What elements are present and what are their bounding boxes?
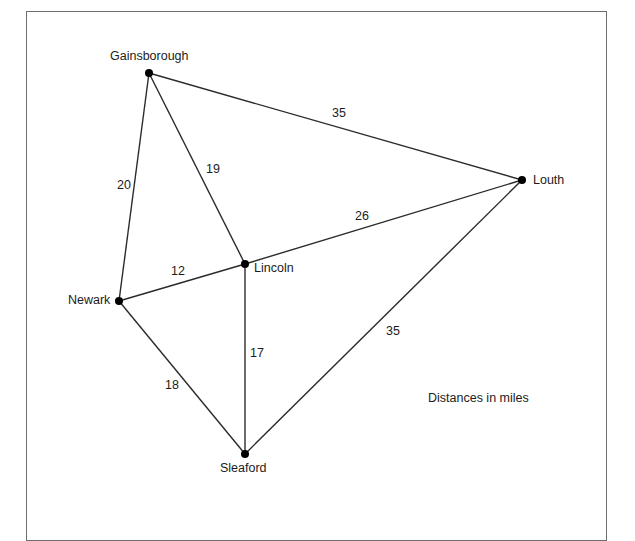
edge-gainsborough-lincoln xyxy=(149,73,245,264)
node-label-newark: Newark xyxy=(68,294,110,307)
edge-weight-newark-lincoln: 12 xyxy=(171,265,185,278)
node-dot-newark xyxy=(115,297,123,305)
node-dot-louth xyxy=(518,176,526,184)
edge-weight-gainsborough-louth: 35 xyxy=(332,107,346,120)
edge-weight-gainsborough-newark: 20 xyxy=(117,179,131,192)
edge-weight-gainsborough-lincoln: 19 xyxy=(206,163,220,176)
edge-newark-sleaford xyxy=(119,301,245,454)
edge-weight-sleaford-louth: 35 xyxy=(386,325,400,338)
edge-weight-lincoln-louth: 26 xyxy=(355,210,369,223)
node-dot-lincoln xyxy=(241,260,249,268)
node-dot-gainsborough xyxy=(145,69,153,77)
edge-weight-lincoln-sleaford: 17 xyxy=(250,347,264,360)
node-label-louth: Louth xyxy=(533,174,564,187)
node-label-lincoln: Lincoln xyxy=(254,262,294,275)
node-label-gainsborough: Gainsborough xyxy=(110,50,189,63)
node-dot-sleaford xyxy=(241,450,249,458)
edge-sleaford-louth xyxy=(245,180,522,454)
edge-gainsborough-louth xyxy=(149,73,522,180)
caption-distances-in-miles: Distances in miles xyxy=(428,392,529,405)
edge-weight-newark-sleaford: 18 xyxy=(165,379,179,392)
node-label-sleaford: Sleaford xyxy=(220,462,267,475)
